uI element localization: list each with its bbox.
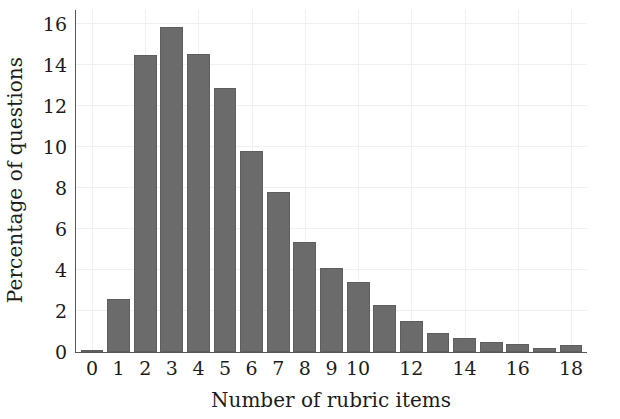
y-tick-label: 0: [55, 341, 67, 363]
gridline-x-14: [465, 10, 466, 352]
bar: [533, 348, 556, 352]
y-tick-label: 8: [55, 177, 67, 199]
gridline-y-16: [76, 23, 587, 24]
bar: [400, 321, 423, 352]
x-tick-label: 16: [506, 357, 530, 379]
bar: [453, 338, 476, 352]
x-tick-label: 2: [139, 357, 151, 379]
x-tick-label: 5: [219, 357, 231, 379]
x-tick-label: 3: [166, 357, 178, 379]
y-tick-label: 6: [55, 218, 67, 240]
bar: [214, 88, 237, 352]
y-tick-label: 14: [43, 54, 67, 76]
x-tick-label: 10: [346, 357, 370, 379]
bar: [506, 344, 529, 352]
x-tick-label: 8: [299, 357, 311, 379]
x-tick-label: 9: [325, 357, 337, 379]
y-tick-label: 10: [43, 136, 67, 158]
bar: [267, 192, 290, 352]
bar: [427, 333, 450, 352]
bar: [373, 305, 396, 352]
bar: [134, 55, 157, 352]
x-tick-label: 4: [192, 357, 204, 379]
x-tick-label: 1: [113, 357, 125, 379]
x-axis-title: Number of rubric items: [75, 388, 587, 412]
x-tick-label: 6: [246, 357, 258, 379]
gridline-x-18: [571, 10, 572, 352]
x-tick-label: 12: [399, 357, 423, 379]
y-tick-label: 4: [55, 259, 67, 281]
x-tick-label: 18: [559, 357, 583, 379]
plot-area: 0246810121416 01234567891012141618: [75, 10, 587, 353]
bar: [480, 342, 503, 352]
bar: [293, 242, 316, 352]
y-tick-label: 12: [43, 95, 67, 117]
gridline-x-12: [411, 10, 412, 352]
bar: [347, 282, 370, 352]
x-tick-label: 0: [86, 357, 98, 379]
bar-chart-figure: Percentage of questions 0246810121416 01…: [0, 0, 620, 419]
bar: [81, 350, 104, 352]
bar: [240, 151, 263, 352]
y-tick-label: 16: [43, 13, 67, 35]
bar: [187, 54, 210, 352]
y-tick-label: 2: [55, 300, 67, 322]
bar: [160, 27, 183, 352]
x-tick-label: 7: [272, 357, 284, 379]
y-axis-title: Percentage of questions: [2, 0, 28, 360]
bar: [107, 299, 130, 352]
gridline-x-16: [518, 10, 519, 352]
gridline-x-0: [92, 10, 93, 352]
bar: [320, 268, 343, 352]
x-tick-label: 14: [452, 357, 476, 379]
bar: [560, 345, 583, 352]
